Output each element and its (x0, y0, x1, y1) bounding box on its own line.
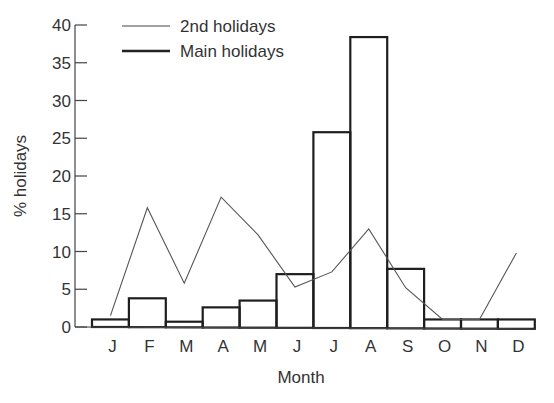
legend-label-main-holidays: Main holidays (180, 42, 284, 61)
month-label: J (108, 337, 117, 356)
month-label: N (475, 337, 487, 356)
x-axis-title: Month (277, 368, 324, 387)
legend-label-2nd-holidays: 2nd holidays (180, 17, 275, 36)
y-tick-label: 5 (62, 280, 71, 299)
bar-main-holidays (129, 298, 166, 327)
x-axis: JFMAMJJASOND (75, 327, 535, 356)
y-tick-label: 40 (52, 16, 71, 35)
month-label: O (438, 337, 451, 356)
y-tick-label: 25 (52, 129, 71, 148)
y-axis: 0510152025303540 (52, 16, 87, 337)
main-holidays-bars (92, 37, 535, 329)
month-label: A (365, 337, 377, 356)
month-label: D (512, 337, 524, 356)
month-label: F (144, 337, 154, 356)
bar-main-holidays (498, 319, 535, 328)
month-label: J (293, 337, 302, 356)
bar-main-holidays (203, 307, 240, 327)
legend: 2nd holidays Main holidays (122, 17, 284, 61)
y-tick-label: 30 (52, 92, 71, 111)
bar-main-holidays (92, 319, 129, 327)
bar-main-holidays (313, 132, 350, 328)
bar-main-holidays (350, 37, 387, 328)
y-axis-title: % holidays (11, 135, 30, 217)
y-tick-label: 15 (52, 205, 71, 224)
bar-main-holidays (166, 322, 203, 328)
bar-main-holidays (424, 319, 461, 328)
holidays-chart: 0510152025303540 JFMAMJJASOND % holidays… (0, 0, 554, 403)
month-label: M (253, 337, 267, 356)
y-tick-label: 35 (52, 54, 71, 73)
month-label: J (330, 337, 339, 356)
y-tick-label: 0 (62, 318, 71, 337)
y-tick-label: 20 (52, 167, 71, 186)
bar-main-holidays (240, 301, 277, 328)
y-tick-label: 10 (52, 243, 71, 262)
month-label: A (217, 337, 229, 356)
month-label: M (179, 337, 193, 356)
bar-main-holidays (461, 319, 498, 328)
month-label: S (402, 337, 413, 356)
